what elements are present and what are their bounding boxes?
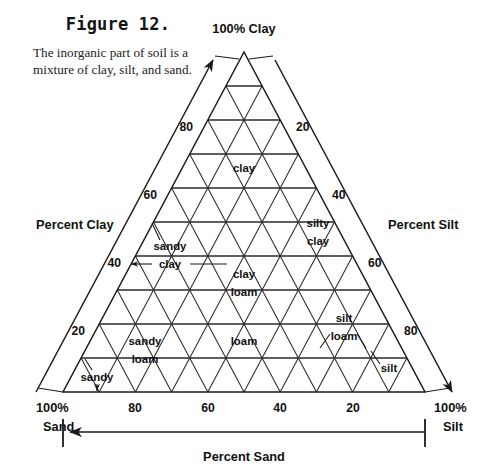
- class-label-clay: clay: [233, 162, 256, 174]
- clay-tick-20: 20: [71, 324, 85, 338]
- apex-connector-left: [215, 56, 239, 59]
- silt-tick-40: 40: [332, 188, 346, 202]
- class-label-sandy: sandy: [154, 240, 188, 252]
- silt-corner-line1: 100%: [434, 400, 467, 415]
- percent-silt-axis-title: Percent Silt: [388, 217, 459, 232]
- sand-tick-labels: 80 60 40 20: [128, 401, 360, 415]
- bottom-left-corner-label: 100% Sand: [36, 400, 74, 434]
- sand-tick-80: 80: [128, 401, 142, 415]
- percent-sand-axis-title: Percent Sand: [203, 449, 285, 464]
- silt-tick-60: 60: [368, 256, 382, 270]
- class-label-sandy-loam-2: loam: [132, 353, 159, 365]
- bottom-right-corner-label: 100% Silt: [434, 400, 467, 434]
- sand-tick-60: 60: [201, 401, 215, 415]
- class-label-sandy-loam-1: sandy: [129, 335, 163, 347]
- silt-tick-20: 20: [296, 120, 310, 134]
- class-label-silt-loam-2: loam: [331, 330, 358, 342]
- sand-tick-40: 40: [273, 401, 287, 415]
- silt-tick-80: 80: [404, 324, 418, 338]
- class-label-silt-bottom: silt: [381, 362, 398, 374]
- class-label-clay-loam-2: loam: [231, 286, 258, 298]
- silt-corner-line2: Silt: [443, 419, 464, 434]
- clay-tick-60: 60: [143, 188, 157, 202]
- percent-sand-axis: Percent Sand: [63, 419, 425, 464]
- sand-corner-connector-left: [38, 388, 63, 392]
- apex-connector-right: [249, 56, 273, 59]
- clay-tick-80: 80: [179, 120, 193, 134]
- sand-corner-line1: 100%: [36, 400, 69, 415]
- sand-corner-line2: Sand: [43, 419, 74, 434]
- leader-silt-loam-down2: [357, 334, 366, 348]
- class-label-silty: silty: [307, 217, 330, 229]
- soil-texture-figure: Figure 12. The inorganic part of soil is…: [0, 0, 490, 469]
- class-label-silt-loam-1: silt: [336, 312, 353, 324]
- class-label-clay-loam-1: clay: [233, 268, 256, 280]
- ternary-diagram: 100% Clay 80 60 40 20 20 40 60 80 Percen…: [0, 0, 490, 469]
- class-label-silty-clay: clay: [307, 235, 330, 247]
- sand-tick-20: 20: [346, 401, 360, 415]
- apex-label: 100% Clay: [212, 21, 276, 36]
- silt-corner-connector-right: [425, 388, 450, 392]
- class-label-sandy-bottom: sandy: [81, 371, 115, 383]
- grid-lines-clay: [63, 86, 425, 358]
- percent-clay-axis-title: Percent Clay: [36, 217, 114, 232]
- class-label-loam: loam: [231, 335, 258, 347]
- clay-tick-40: 40: [107, 256, 121, 270]
- class-label-sandy-clay: clay: [159, 258, 182, 270]
